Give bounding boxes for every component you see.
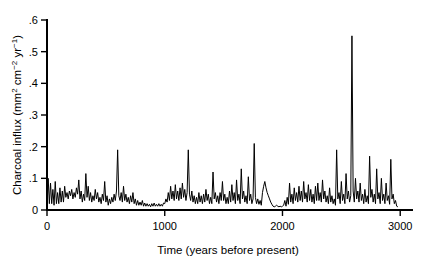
- y-axis-title-mid-1: cm: [11, 70, 23, 89]
- y-axis-title-close: ): [11, 35, 23, 39]
- y-tick-label: .6: [29, 14, 38, 26]
- y-tick-label: 0: [32, 204, 38, 216]
- y-axis-title: Charcoal influx (mm2 cm−2 yr−1): [10, 35, 23, 195]
- y-axis-ticks: 0.1.2.3.4.5.6: [29, 14, 47, 216]
- y-tick-label: .3: [29, 109, 38, 121]
- y-tick-label: .5: [29, 46, 38, 58]
- y-tick-label: .1: [29, 172, 38, 184]
- y-axis-title-mid-2: yr: [11, 48, 23, 61]
- x-tick-label: 0: [44, 220, 50, 232]
- x-axis-title: Time (years before present): [157, 244, 299, 256]
- svg-text:Charcoal influx (mm2 cm−2 yr−1: Charcoal influx (mm2 cm−2 yr−1): [10, 35, 23, 195]
- data-series-charcoal-influx: [47, 36, 398, 209]
- x-axis-ticks: 0100020003000: [44, 210, 413, 232]
- y-axis-title-base: Charcoal influx (mm: [11, 93, 23, 195]
- charcoal-influx-line-chart: Charcoal influx (mm2 cm−2 yr−1) 0.1.2.3.…: [0, 0, 432, 264]
- y-tick-label: .2: [29, 141, 38, 153]
- x-tick-label: 2000: [270, 220, 294, 232]
- x-tick-label: 3000: [388, 220, 412, 232]
- x-tick-label: 1000: [152, 220, 176, 232]
- y-tick-label: .4: [29, 77, 38, 89]
- chart-figure: Charcoal influx (mm2 cm−2 yr−1) 0.1.2.3.…: [0, 0, 432, 264]
